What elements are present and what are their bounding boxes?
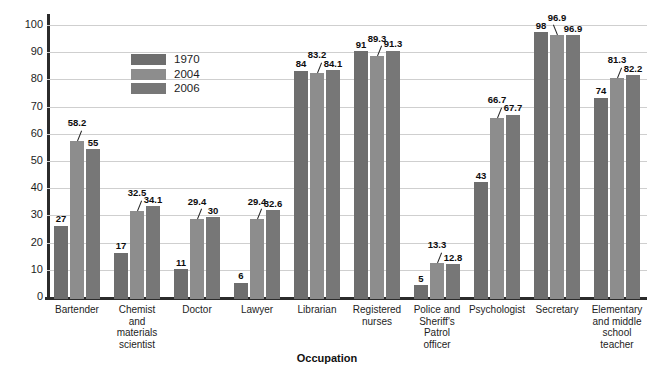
bar: 32.5: [130, 211, 144, 299]
legend-label: 1970: [174, 54, 200, 66]
bar: 84: [294, 71, 308, 299]
bar: 17: [114, 253, 128, 299]
bar: 82.2: [626, 75, 640, 299]
scan-artifact: [0, 0, 654, 9]
y-axis-tick-label: 40: [9, 182, 43, 193]
bar: 74: [594, 98, 608, 299]
bar-value-label: 98: [536, 21, 547, 31]
y-axis-tick-label: 10: [9, 264, 43, 275]
label-leader-line: [377, 46, 382, 57]
x-axis-category-label: Lawyer: [227, 304, 287, 316]
category-label-line: Bartender: [47, 304, 107, 316]
bar: 32.6: [266, 210, 280, 299]
bar-value-label: 91.3: [384, 39, 403, 49]
category-label-line: officer: [407, 339, 467, 351]
category-label-line: and materials: [107, 316, 167, 339]
bar-value-label: 91: [356, 40, 367, 50]
bar-value-label: 96.9: [564, 24, 583, 34]
legend-item: 2004: [131, 69, 200, 81]
y-axis-tick-label: 20: [9, 237, 43, 248]
bar: 96.9: [550, 35, 564, 299]
bar-value-label: 74: [596, 86, 607, 96]
bar: 34.1: [146, 206, 160, 299]
bar-value-label: 5: [418, 274, 423, 284]
bar: 91: [354, 51, 368, 299]
label-leader-line: [317, 62, 322, 73]
category-label-line: Elementary: [587, 304, 647, 316]
legend-swatch: [131, 83, 166, 94]
bar: 58.2: [70, 141, 84, 299]
legend-item: 1970: [131, 54, 200, 66]
legend: 197020042006: [131, 54, 200, 95]
bar-chart: 0102030405060708090100 Percentage 2758.2…: [0, 0, 654, 376]
category-label-line: and middle: [587, 316, 647, 328]
bar: 29.4: [190, 219, 204, 299]
bar-value-label: 29.4: [188, 197, 207, 207]
bar-value-label: 55: [88, 138, 99, 148]
legend-swatch: [131, 69, 166, 80]
bar: 67.7: [506, 115, 520, 299]
bar-value-label: 84: [296, 59, 307, 69]
label-leader-line: [257, 209, 262, 220]
bar: 12.8: [446, 264, 460, 299]
bar-value-label: 17: [116, 241, 127, 251]
y-axis-tick-label: 50: [9, 155, 43, 166]
bar-value-label: 12.8: [444, 253, 463, 263]
x-axis-category-label: Registerednurses: [347, 304, 407, 327]
category-label-line: Patrol: [407, 327, 467, 339]
label-leader-line: [197, 209, 202, 220]
bar-value-label: 82.2: [624, 64, 643, 74]
y-axis-tick-label: 0: [9, 291, 43, 302]
bar: 13.3: [430, 263, 444, 299]
legend-label: 2006: [174, 83, 200, 95]
category-label-line: Registered: [347, 304, 407, 316]
label-leader-line: [137, 200, 142, 211]
category-label-line: Doctor: [167, 304, 227, 316]
label-leader-line: [553, 25, 558, 36]
bar: 91.3: [386, 51, 400, 299]
legend-item: 2006: [131, 83, 200, 95]
x-axis-category-label: Librarian: [287, 304, 347, 316]
category-label-line: Sheriff's: [407, 316, 467, 328]
y-axis-tick-label: 90: [9, 46, 43, 57]
bar-value-label: 13.3: [428, 240, 447, 250]
bar: 96.9: [566, 35, 580, 299]
y-axis-tick-label: 30: [9, 209, 43, 220]
category-label-line: Secretary: [527, 304, 587, 316]
bar: 84.1: [326, 70, 340, 299]
label-leader-line: [77, 130, 82, 141]
x-axis-category-label: Police andSheriff'sPatrolofficer: [407, 304, 467, 350]
category-label-line: teacher: [587, 339, 647, 351]
label-leader-line: [437, 252, 442, 263]
category-label-line: school: [587, 327, 647, 339]
category-label-line: Psychologist: [467, 304, 527, 316]
bar-value-label: 30: [208, 206, 219, 216]
bar-value-label: 32.6: [264, 199, 283, 209]
y-axis-tick-label: 60: [9, 128, 43, 139]
bar: 11: [174, 269, 188, 299]
bar: 55: [86, 149, 100, 299]
x-axis-category-label: Chemistand materialsscientist: [107, 304, 167, 350]
bar-value-label: 96.9: [548, 13, 567, 23]
x-axis-title: Occupation: [0, 352, 654, 364]
x-axis-category-label: Psychologist: [467, 304, 527, 316]
y-axis-tick-label: 100: [9, 19, 43, 30]
bar: 81.3: [610, 78, 624, 299]
x-axis-category-label: Bartender: [47, 304, 107, 316]
y-axis-ticks: 0102030405060708090100: [0, 0, 43, 300]
bar: 30: [206, 217, 220, 299]
category-label-line: Librarian: [287, 304, 347, 316]
label-leader-line: [497, 107, 502, 118]
bar-value-label: 27: [56, 214, 67, 224]
category-label-line: Lawyer: [227, 304, 287, 316]
bar-value-label: 6: [238, 271, 243, 281]
category-label-line: Chemist: [107, 304, 167, 316]
x-axis-category-label: Doctor: [167, 304, 227, 316]
y-axis-tick-label: 80: [9, 73, 43, 84]
bar-value-label: 67.7: [504, 103, 523, 113]
legend-label: 2004: [174, 69, 200, 81]
bar-value-label: 11: [176, 258, 186, 268]
bar: 83.2: [310, 73, 324, 299]
bar: 66.7: [490, 118, 504, 299]
category-label-line: scientist: [107, 339, 167, 351]
